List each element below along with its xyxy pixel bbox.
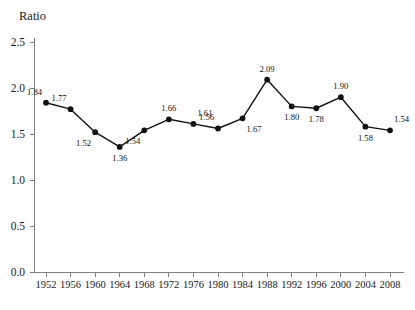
- x-axis-tick-label: 2008: [380, 279, 401, 290]
- x-axis-tick-label: 1972: [158, 279, 179, 290]
- x-axis-tick-label: 1976: [183, 279, 204, 290]
- data-point-marker: [92, 129, 98, 135]
- data-point-marker: [141, 127, 147, 133]
- data-point-marker: [289, 104, 295, 110]
- chart-axes: [30, 38, 404, 277]
- data-point-label: 1.80: [284, 112, 299, 122]
- data-point-label: 1.78: [309, 114, 324, 124]
- x-axis-tick-label: 1956: [60, 279, 81, 290]
- data-point-marker: [387, 127, 393, 133]
- data-point-label: 1.84: [27, 87, 42, 97]
- y-axis-tick-label: 1.5: [0, 128, 25, 140]
- data-point-label: 1.56: [199, 112, 214, 122]
- x-axis-tick-label: 2004: [355, 279, 376, 290]
- data-point-label: 1.58: [358, 133, 373, 143]
- x-axis-tick-label: 1952: [36, 279, 57, 290]
- data-point-marker: [264, 77, 270, 83]
- data-point-label: 1.54: [125, 136, 140, 146]
- data-point-label: 1.52: [76, 138, 91, 148]
- data-point-label: 1.90: [333, 81, 348, 91]
- data-point-marker: [43, 100, 49, 106]
- line-chart-plot: [0, 0, 415, 310]
- x-axis-tick-label: 1996: [306, 279, 327, 290]
- data-point-label: 1.36: [112, 153, 127, 163]
- data-point-label: 1.77: [52, 93, 67, 103]
- data-point-marker: [215, 126, 221, 132]
- x-axis-tick-label: 1960: [85, 279, 106, 290]
- x-axis-tick-label: 1968: [134, 279, 155, 290]
- data-point-marker: [240, 115, 246, 121]
- chart-container: Ratio 2.52.01.51.00.50.0 195219561960196…: [0, 0, 415, 310]
- x-axis-tick-label: 1984: [232, 279, 253, 290]
- data-point-marker: [68, 106, 74, 112]
- data-point-label: 1.66: [161, 103, 176, 113]
- data-point-marker: [338, 94, 344, 100]
- data-point-label: 1.54: [394, 114, 409, 124]
- y-axis-tick-label: 2.0: [0, 82, 25, 94]
- x-axis-tick-label: 1992: [281, 279, 302, 290]
- data-point-label: 1.67: [247, 124, 262, 134]
- data-point-marker: [313, 105, 319, 111]
- x-axis-tick-label: 1964: [109, 279, 130, 290]
- data-point-marker: [166, 116, 172, 122]
- data-point-label: 2.09: [260, 64, 275, 74]
- x-axis-tick-label: 1988: [257, 279, 278, 290]
- data-point-marker: [363, 124, 369, 130]
- x-axis-tick-label: 1980: [208, 279, 229, 290]
- y-axis-tick-label: 1.0: [0, 174, 25, 186]
- y-axis-tick-label: 2.5: [0, 36, 25, 48]
- data-point-marker: [191, 121, 197, 127]
- y-axis-tick-label: 0.0: [0, 266, 25, 278]
- y-axis-tick-label: 0.5: [0, 220, 25, 232]
- x-axis-tick-label: 2000: [330, 279, 351, 290]
- data-point-marker: [117, 144, 123, 150]
